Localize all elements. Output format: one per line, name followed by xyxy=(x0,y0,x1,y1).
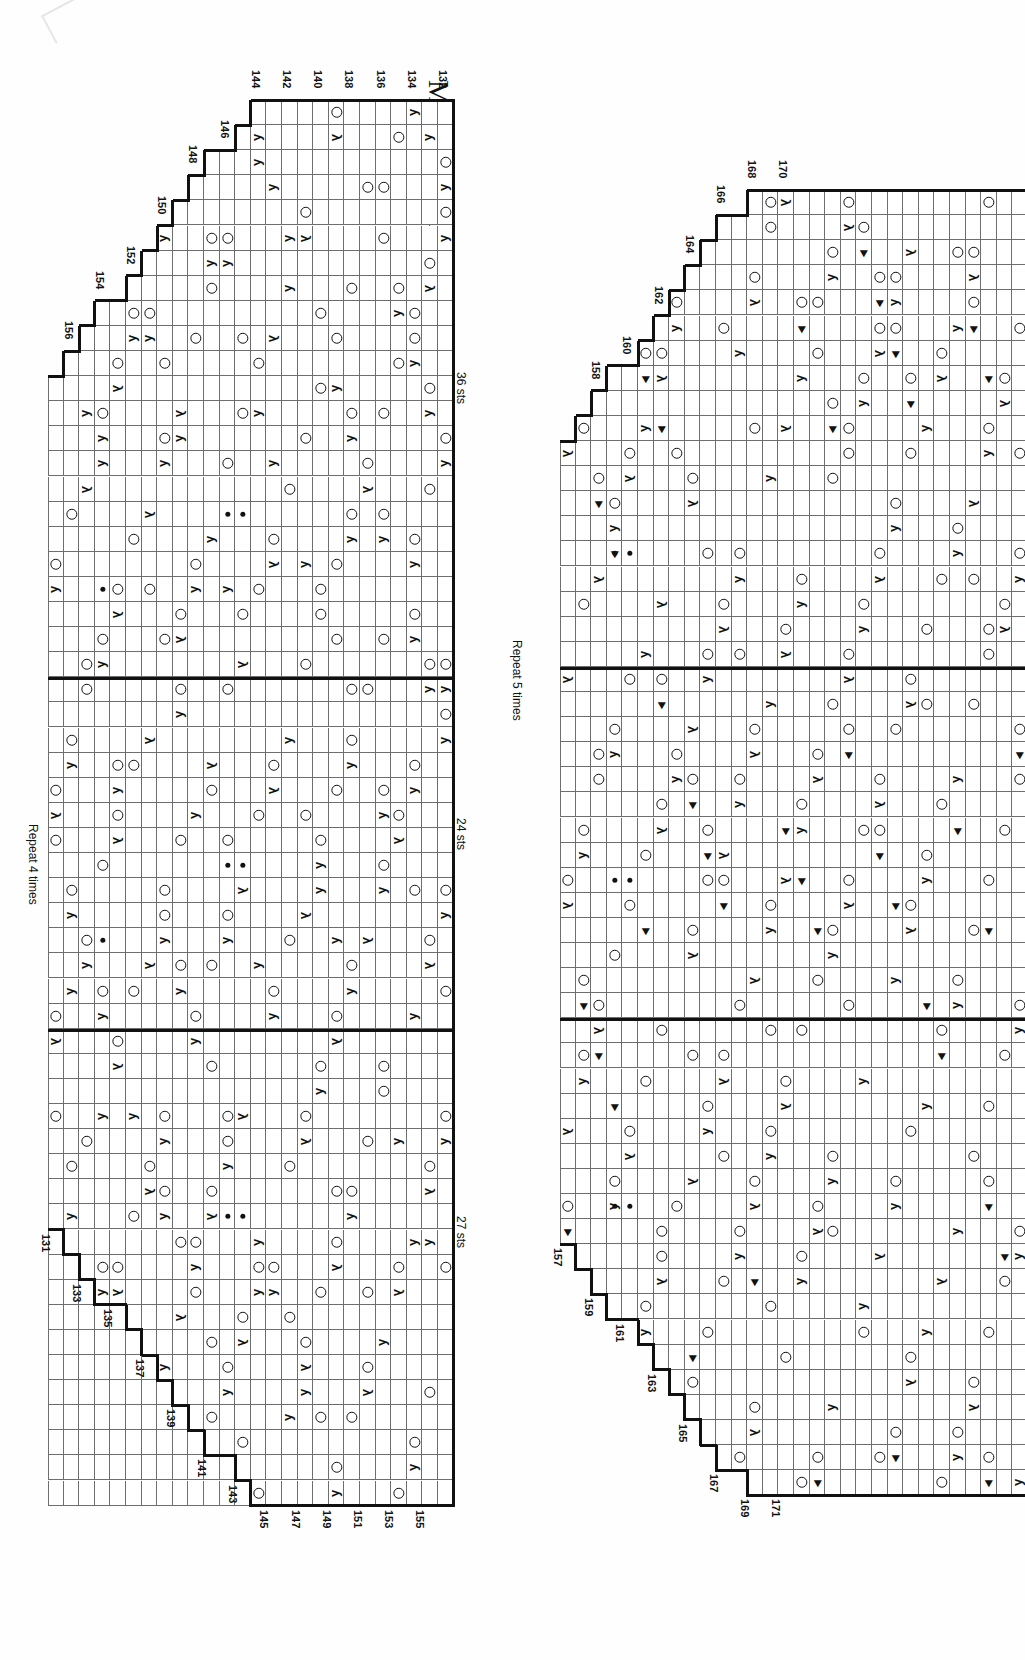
chart-cell xyxy=(669,1094,685,1119)
chart-cell xyxy=(888,466,904,491)
chart-cell xyxy=(360,552,376,577)
chart-outline xyxy=(716,1469,733,1472)
chart-cell xyxy=(220,477,236,502)
symbol-purl xyxy=(90,582,115,598)
symbol-ssk xyxy=(355,481,380,497)
chart-cell xyxy=(391,577,407,602)
chart-cell xyxy=(313,753,329,778)
symbol-yo xyxy=(961,1149,986,1165)
symbol-cdd xyxy=(680,797,705,813)
chart-cell xyxy=(966,1043,982,1068)
chart-cell xyxy=(407,175,423,200)
chart-cell xyxy=(204,652,220,677)
chart-cell xyxy=(997,968,1013,993)
symbol-yo xyxy=(649,1249,674,1265)
chart-cell xyxy=(235,778,251,803)
chart-cell xyxy=(220,552,236,577)
symbol-ssk xyxy=(930,370,955,386)
chart-cell xyxy=(591,667,607,692)
symbol-yo xyxy=(1008,772,1025,788)
chart-cell xyxy=(220,1004,236,1029)
chart-cell xyxy=(825,617,841,642)
symbol-yo xyxy=(215,682,240,698)
symbol-k2tog xyxy=(914,1324,939,1340)
symbol-ssk xyxy=(774,195,799,211)
chart-cell xyxy=(188,477,204,502)
chart-cell xyxy=(407,1330,423,1355)
chart-cell xyxy=(700,265,716,290)
symbol-yo xyxy=(121,983,146,999)
chart-cell xyxy=(110,1230,126,1255)
symbol-yo xyxy=(433,1109,458,1125)
chart-cell xyxy=(607,968,623,993)
chart-cell xyxy=(266,903,282,928)
chart-cell xyxy=(235,477,251,502)
symbol-k2tog xyxy=(727,1249,752,1265)
row-number: 170 xyxy=(777,160,789,178)
chart-cell xyxy=(778,1169,794,1194)
symbol-yo xyxy=(836,446,861,462)
symbol-yo xyxy=(199,1184,224,1200)
chart-cell xyxy=(872,441,888,466)
symbol-k2tog xyxy=(262,1284,287,1300)
chart-cell xyxy=(638,1094,654,1119)
chart-cell xyxy=(716,968,732,993)
chart-cell xyxy=(344,602,360,627)
chart-cell xyxy=(966,1018,982,1043)
symbol-yo xyxy=(1008,998,1025,1014)
chart-cell xyxy=(778,968,794,993)
symbol-yo xyxy=(230,1435,255,1451)
chart-cell xyxy=(422,828,438,853)
chart-cell xyxy=(142,853,158,878)
chart-cell xyxy=(638,767,654,792)
chart-cell xyxy=(888,1043,904,1068)
chart-cell xyxy=(997,290,1013,315)
symbol-yo xyxy=(680,923,705,939)
chart-cell xyxy=(391,477,407,502)
symbol-ssk xyxy=(649,822,674,838)
chart-cell xyxy=(825,818,841,843)
chart-cell xyxy=(298,1430,314,1455)
chart-cell xyxy=(298,125,314,150)
chart-cell xyxy=(360,1104,376,1129)
symbol-yo xyxy=(898,446,923,462)
chart-cell xyxy=(732,391,748,416)
chart-cell xyxy=(654,968,670,993)
symbol-k2tog xyxy=(402,782,427,798)
chart-cell xyxy=(560,491,576,516)
chart-cell xyxy=(422,1405,438,1430)
chart-cell xyxy=(157,1455,173,1480)
chart-cell xyxy=(64,1481,80,1506)
chart-cell xyxy=(95,702,111,727)
chart-cell xyxy=(266,1179,282,1204)
chart-outline xyxy=(919,189,936,192)
chart-cell xyxy=(794,441,810,466)
symbol-yo xyxy=(324,632,349,648)
chart-cell xyxy=(794,240,810,265)
chart-cell xyxy=(638,391,654,416)
chart-cell xyxy=(48,928,64,953)
chart-cell xyxy=(64,1230,80,1255)
symbol-cdd xyxy=(961,320,986,336)
chart-cell xyxy=(810,1420,826,1445)
chart-cell xyxy=(607,918,623,943)
chart-cell xyxy=(716,1420,732,1445)
chart-cell xyxy=(950,1094,966,1119)
chart-cell xyxy=(560,617,576,642)
chart-cell xyxy=(266,1054,282,1079)
symbol-yo xyxy=(914,697,939,713)
chart-cell xyxy=(950,742,966,767)
chart-cell xyxy=(716,692,732,717)
chart-cell xyxy=(95,1455,111,1480)
row-number: 155 xyxy=(414,1510,426,1528)
chart-cell xyxy=(422,1079,438,1104)
symbol-k2tog xyxy=(883,1199,908,1215)
symbol-yo xyxy=(371,1084,396,1100)
chart-cell xyxy=(950,868,966,893)
chart-cell xyxy=(638,943,654,968)
symbol-ssk xyxy=(106,1059,131,1075)
symbol-yo xyxy=(664,295,689,311)
row-number: 154 xyxy=(94,271,106,289)
symbol-yo xyxy=(586,998,611,1014)
symbol-yo xyxy=(711,596,736,612)
